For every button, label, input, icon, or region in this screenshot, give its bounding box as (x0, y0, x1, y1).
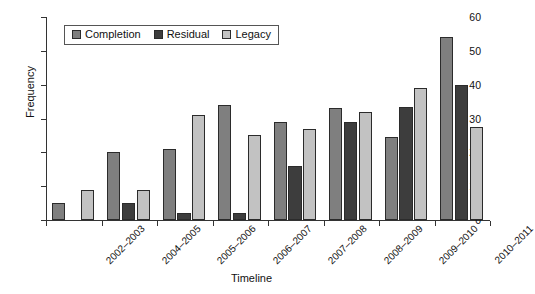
bar-completion-0 (52, 203, 65, 220)
bar-residual-6 (399, 107, 412, 220)
legend-label: Residual (167, 29, 210, 40)
bar-completion-2 (163, 149, 176, 220)
bar-completion-6 (385, 137, 398, 220)
bar-residual-5 (344, 122, 357, 220)
plot-area: 0102030405060 CompletionResidualLegacy (46, 17, 490, 220)
bar-completion-4 (274, 122, 287, 220)
bar-residual-3 (233, 213, 246, 220)
bar-legacy-1 (137, 190, 150, 220)
bar-legacy-7 (470, 127, 483, 220)
y-axis-title: Frequency (24, 32, 36, 152)
x-axis-label-3: 2006–2007 (270, 223, 313, 266)
x-axis-label-1: 2004–2005 (159, 223, 202, 266)
bar-completion-3 (218, 105, 231, 220)
chart-legend: CompletionResidualLegacy (64, 25, 279, 45)
x-axis-tick (490, 221, 491, 226)
x-axis-label-2: 2005–2006 (215, 223, 258, 266)
bar-legacy-5 (359, 112, 372, 220)
x-axis-label-6: 2009–2010 (437, 223, 480, 266)
bar-residual-7 (455, 85, 468, 220)
legend-item-completion[interactable]: Completion (72, 29, 141, 40)
bar-legacy-0 (81, 190, 94, 220)
x-axis-label-5: 2008–2009 (381, 223, 424, 266)
x-axis-label-7: 2010–2011 (492, 223, 535, 266)
bar-completion-7 (440, 37, 453, 220)
bar-residual-1 (122, 203, 135, 220)
bar-residual-2 (177, 213, 190, 220)
x-axis-label-0: 2002–2003 (104, 223, 147, 266)
bar-residual-4 (288, 166, 301, 220)
bar-series-group (46, 17, 490, 220)
bar-legacy-2 (192, 115, 205, 220)
x-axis-label-4: 2007–2008 (326, 223, 369, 266)
legend-label: Completion (85, 29, 141, 40)
bar-completion-5 (329, 108, 342, 220)
bar-legacy-3 (248, 135, 261, 220)
legend-swatch-residual-icon (154, 30, 163, 39)
bar-legacy-4 (303, 129, 316, 220)
bar-completion-1 (107, 152, 120, 220)
legend-label: Legacy (235, 29, 270, 40)
legend-swatch-completion-icon (72, 30, 81, 39)
legend-item-residual[interactable]: Residual (154, 29, 210, 40)
bar-legacy-6 (414, 88, 427, 220)
legend-swatch-legacy-icon (222, 30, 231, 39)
legend-item-legacy[interactable]: Legacy (222, 29, 270, 40)
x-axis-title: Timeline (0, 272, 503, 284)
x-axis-category-labels: 2002–20032004–20052005–20062006–20072007… (46, 223, 490, 273)
